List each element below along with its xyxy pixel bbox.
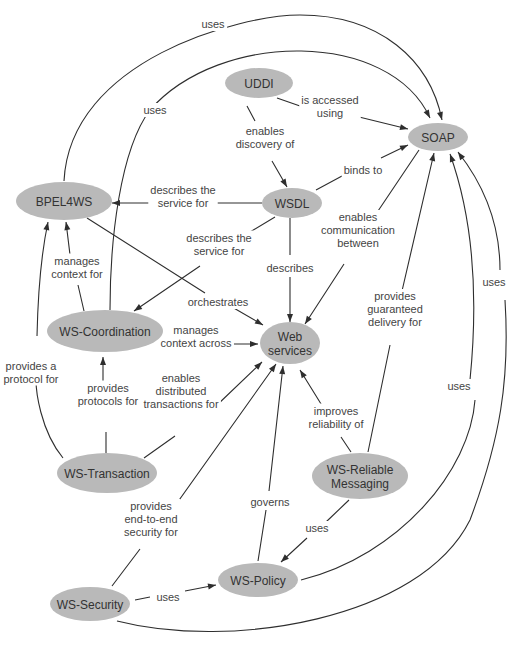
node-label: WS-Security: [57, 598, 124, 612]
edge-label-ws-reliable-messaging-to-web-services: improvesreliability of: [308, 405, 364, 430]
concept-map-diagram: is accessedusingenablesdiscovery ofbinds…: [0, 0, 526, 646]
edge-label-line: uses: [447, 380, 471, 392]
edge-label-line: transactions for: [143, 398, 219, 410]
edge-label-line: orchestrates: [188, 296, 249, 308]
edge-label-ws-policy-to-web-services: governs: [250, 496, 290, 508]
edge-label-line: protocols for: [78, 395, 139, 407]
arrowhead-icon: [437, 111, 445, 120]
node-bpel4ws[interactable]: BPEL4WS: [16, 182, 112, 220]
edge-label-line: provides: [87, 382, 129, 394]
edge-label-line: manages: [173, 324, 219, 336]
arrowhead-icon: [112, 200, 120, 206]
arrowhead-icon: [399, 142, 409, 151]
edge-label-line: enables: [246, 125, 285, 137]
node-wsdl[interactable]: WSDL: [262, 188, 322, 218]
edge-label-line: describes: [266, 262, 314, 274]
edge-label-ws-policy-to-soap: uses: [447, 380, 471, 392]
node-label-line: WS-Transaction: [64, 467, 150, 481]
node-label-line: SOAP: [421, 131, 454, 145]
node-label-line: WS-Reliable: [327, 463, 394, 477]
edge-label-line: manages: [54, 255, 100, 267]
edge-label-ws-transaction-to-bpel4ws: provides aprotocol for: [3, 360, 58, 385]
edge-label-wsdl-to-bpel4ws: describes theservice for: [150, 184, 215, 209]
edge-label-line: describes the: [186, 232, 251, 244]
arrowhead-icon: [100, 357, 106, 365]
arrowhead-icon: [429, 152, 437, 161]
node-web-services[interactable]: Webservices: [260, 322, 320, 364]
node-ws-reliable-messaging[interactable]: WS-ReliableMessaging: [312, 453, 408, 499]
edge-label-line: uses: [201, 18, 225, 30]
node-label-line: WS-Security: [57, 598, 124, 612]
arrowhead-icon: [447, 153, 455, 163]
edge-label-line: enables: [162, 372, 201, 384]
edge-label-bpel4ws-to-soap: uses: [201, 18, 225, 30]
node-uddi[interactable]: UDDI: [225, 68, 293, 98]
edge-label-line: guaranteed: [367, 303, 423, 315]
arrowhead-icon: [297, 368, 306, 378]
arrowhead-icon: [269, 362, 279, 372]
node-label: SOAP: [421, 131, 454, 145]
edge-label-wsdl-to-web-services: describes: [266, 262, 314, 274]
arrowhead-icon: [287, 314, 293, 322]
edge-ws-policy-to-web-services: [258, 366, 283, 561]
edge-labels-layer: is accessedusingenablesdiscovery ofbinds…: [1, 17, 508, 604]
edge-label-line: service for: [194, 245, 245, 257]
node-ws-coordination[interactable]: WS-Coordination: [47, 310, 163, 352]
node-soap[interactable]: SOAP: [408, 123, 468, 151]
node-ws-transaction[interactable]: WS-Transaction: [57, 453, 157, 493]
edge-label-line: uses: [482, 276, 506, 288]
node-label: UDDI: [244, 77, 273, 91]
node-ws-policy[interactable]: WS-Policy: [218, 563, 298, 597]
arrowhead-icon: [280, 179, 289, 189]
arrowhead-icon: [400, 124, 409, 132]
node-label-line: WS-Policy: [230, 574, 285, 588]
node-label: WS-Coordination: [59, 325, 150, 339]
edge-label-line: communication: [321, 224, 395, 236]
edge-label-wsdl-to-ws-coordination: describes theservice for: [186, 232, 251, 257]
edge-label-line: binds to: [344, 164, 383, 176]
edge-label-line: security for: [124, 526, 178, 538]
edge-label-line: uses: [156, 591, 180, 603]
node-label-line: BPEL4WS: [36, 195, 93, 209]
edge-label-line: using: [317, 107, 343, 119]
node-label-line: WS-Coordination: [59, 325, 150, 339]
edge-label-line: governs: [250, 496, 290, 508]
node-label: WS-Transaction: [64, 467, 150, 481]
edge-label-ws-reliable-messaging-to-soap: providesguaranteeddelivery for: [367, 290, 423, 328]
edge-label-line: service for: [158, 197, 209, 209]
edge-label-line: improves: [314, 405, 359, 417]
edge-label-ws-coordination-to-bpel4ws: managescontext for: [51, 255, 103, 280]
arrowhead-icon: [63, 221, 70, 230]
node-ws-security[interactable]: WS-Security: [50, 587, 130, 621]
arrowhead-icon: [43, 221, 51, 230]
edge-label-line: protocol for: [3, 373, 58, 385]
edge-label-wsdl-to-soap: binds to: [344, 164, 383, 176]
arrowhead-icon: [302, 316, 311, 326]
edge-label-line: context for: [51, 268, 103, 280]
node-label-line: UDDI: [244, 77, 273, 91]
edge-label-line: end-to-end: [124, 513, 177, 525]
arrowhead-icon: [255, 318, 265, 327]
node-label: WS-Policy: [230, 574, 285, 588]
edge-label-line: distributed: [156, 385, 207, 397]
arrowhead-icon: [132, 304, 142, 313]
node-label-line: services: [268, 344, 312, 358]
edge-label-bpel4ws-to-web-services: orchestrates: [188, 296, 249, 308]
edge-label-line: reliability of: [308, 418, 364, 430]
arrowhead-icon: [424, 110, 433, 120]
edge-label-ws-security-to-ws-policy: uses: [156, 591, 180, 603]
edge-label-line: enables: [339, 211, 378, 223]
edge-label-line: is accessed: [301, 94, 358, 106]
node-label-line: Messaging: [331, 477, 389, 491]
edge-label-line: delivery for: [368, 316, 422, 328]
edge-label-line: uses: [305, 522, 329, 534]
arrowhead-icon: [250, 341, 258, 347]
edge-label-line: provides a: [6, 360, 58, 372]
node-label: WSDL: [275, 197, 310, 211]
edge-label-ws-coordination-to-soap: uses: [143, 104, 167, 116]
arrowhead-icon: [208, 582, 217, 589]
edge-label-line: discovery of: [236, 138, 296, 150]
edge-label-line: provides: [130, 500, 172, 512]
edge-label-line: uses: [143, 104, 167, 116]
edge-label-line: between: [337, 237, 379, 249]
